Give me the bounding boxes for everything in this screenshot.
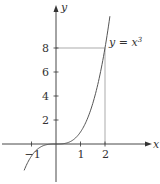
y-tick-label: 2: [42, 114, 49, 127]
x-tick-label: 2: [102, 148, 109, 161]
x-tick-label: 1: [78, 148, 85, 161]
y-axis-arrow-icon: [54, 5, 59, 12]
y-tick-label: 6: [42, 66, 49, 79]
y-tick-label: 4: [42, 90, 49, 103]
cubic-function-chart: −112 2468 x y y = x3: [0, 0, 160, 184]
y-axis-label: y: [60, 1, 68, 14]
y-axis: [54, 5, 59, 182]
x-axis: [2, 142, 152, 147]
y-tick-label: 8: [42, 42, 49, 55]
curve-annotation: y = x3: [108, 36, 143, 49]
x-axis-label: x: [153, 138, 160, 151]
guide-lines: [56, 48, 105, 144]
x-axis-arrow-icon: [145, 142, 152, 147]
